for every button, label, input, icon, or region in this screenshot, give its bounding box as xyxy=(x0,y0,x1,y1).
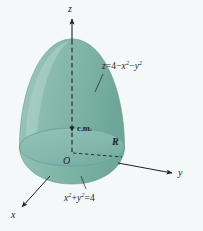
center-of-mass-label: c.m. xyxy=(77,124,92,133)
region-radius-label: R xyxy=(112,137,119,147)
origin-label: O xyxy=(63,156,70,166)
x-axis-label: x xyxy=(11,210,15,220)
y-axis-label: y xyxy=(178,168,182,178)
x-axis-visible xyxy=(22,176,50,207)
boundary-equation-label: x2+y2=4 xyxy=(64,194,95,204)
surface-equation-label: z=4−x2−y2 xyxy=(102,62,142,72)
surface-eq-term2-exponent: 2 xyxy=(139,59,142,66)
paraboloid-figure: z y x O R c.m. z=4−x2−y2 x2+y2=4 xyxy=(0,0,203,231)
figure-canvas xyxy=(0,0,203,231)
z-axis-label: z xyxy=(68,4,72,14)
boundary-eq-rhs: 4 xyxy=(90,193,95,203)
y-axis-visible xyxy=(118,163,172,173)
